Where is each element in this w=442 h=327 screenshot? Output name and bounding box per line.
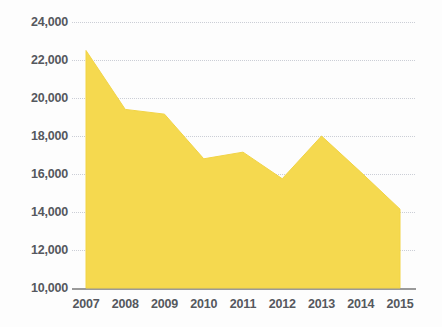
x-tick-label: 2007 (72, 297, 99, 311)
area-chart: 10,00012,00014,00016,00018,00020,00022,0… (0, 0, 442, 327)
x-tick-label: 2013 (308, 297, 335, 311)
x-tick-label: 2009 (151, 297, 178, 311)
x-tick-label: 2008 (112, 297, 139, 311)
x-tick-label: 2015 (386, 297, 413, 311)
x-tick-label: 2012 (269, 297, 296, 311)
x-tick-label: 2010 (190, 297, 217, 311)
x-axis-tick-labels: 200720082009201020112012201320142015 (0, 0, 442, 327)
x-tick-label: 2014 (347, 297, 374, 311)
x-tick-label: 2011 (230, 297, 256, 311)
